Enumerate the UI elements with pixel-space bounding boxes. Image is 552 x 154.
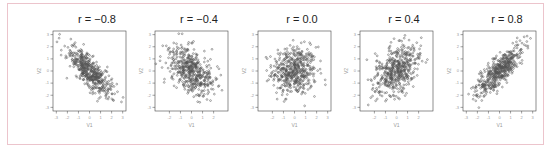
svg-text:2: 2 — [354, 44, 357, 49]
svg-text:0: 0 — [498, 115, 501, 120]
svg-text:0: 0 — [354, 68, 357, 73]
svg-text:2: 2 — [149, 44, 152, 49]
svg-text:3: 3 — [122, 115, 125, 120]
plot-box — [53, 31, 126, 111]
svg-text:-1: -1 — [45, 80, 49, 85]
x-axis-label: V1 — [188, 122, 194, 128]
svg-text:1: 1 — [406, 115, 409, 120]
svg-text:3: 3 — [47, 32, 50, 37]
svg-text:3: 3 — [354, 32, 357, 37]
scatter-plot: -3-2-10123-3-2-10123V1V2 — [45, 4, 149, 146]
svg-text:3: 3 — [327, 115, 330, 120]
svg-text:-2: -2 — [250, 93, 254, 98]
x-axis-label: V1 — [291, 122, 297, 128]
svg-text:2: 2 — [316, 115, 319, 120]
svg-text:0: 0 — [252, 68, 255, 73]
y-axis-label: V2 — [138, 68, 144, 74]
svg-text:-3: -3 — [455, 105, 459, 110]
svg-text:-2: -2 — [271, 115, 275, 120]
svg-text:1: 1 — [509, 115, 512, 120]
svg-text:3: 3 — [532, 115, 535, 120]
svg-text:1: 1 — [47, 56, 50, 61]
svg-text:2: 2 — [521, 115, 524, 120]
scatter-plot: -2-1012-3-2-10123V1V2 — [352, 4, 456, 146]
scatter-panel-3: r = 0.0 -2-10123-3-2-10123V1V2 — [250, 4, 354, 146]
svg-text:0: 0 — [293, 115, 296, 120]
svg-text:1: 1 — [457, 56, 460, 61]
data-points — [56, 33, 124, 102]
svg-text:0: 0 — [149, 68, 152, 73]
svg-text:3: 3 — [252, 32, 255, 37]
svg-text:2: 2 — [252, 44, 255, 49]
y-axis-label: V2 — [343, 68, 349, 74]
svg-text:-1: -1 — [179, 115, 183, 120]
svg-text:2: 2 — [47, 44, 50, 49]
svg-text:-2: -2 — [455, 93, 459, 98]
figure-frame: r = −0.8 -3-2-10123-3-2-10123V1V2 r = −0… — [7, 3, 544, 145]
svg-text:0: 0 — [190, 115, 193, 120]
scatter-plot: -2-1012-3-2-10123V1V2 — [147, 4, 251, 146]
data-points — [366, 35, 428, 106]
svg-text:2: 2 — [111, 115, 114, 120]
svg-text:-2: -2 — [352, 93, 356, 98]
x-axis-label: V1 — [86, 122, 92, 128]
svg-text:2: 2 — [418, 115, 421, 120]
x-axis-label: V1 — [393, 122, 399, 128]
svg-text:-3: -3 — [45, 105, 49, 110]
svg-text:-2: -2 — [66, 115, 70, 120]
svg-text:3: 3 — [457, 32, 460, 37]
svg-text:-2: -2 — [168, 115, 172, 120]
svg-text:1: 1 — [304, 115, 307, 120]
svg-text:-1: -1 — [455, 80, 459, 85]
y-axis-label: V2 — [241, 68, 247, 74]
svg-text:-1: -1 — [250, 80, 254, 85]
svg-text:-1: -1 — [147, 80, 151, 85]
svg-text:-2: -2 — [373, 115, 377, 120]
svg-text:-1: -1 — [352, 80, 356, 85]
svg-text:0: 0 — [47, 68, 50, 73]
data-points — [468, 35, 532, 108]
scatter-plot: -3-2-10123-3-2-10123V1V2 — [455, 4, 552, 146]
svg-text:-2: -2 — [476, 115, 480, 120]
svg-text:-2: -2 — [147, 93, 151, 98]
x-axis-label: V1 — [496, 122, 502, 128]
svg-text:1: 1 — [149, 56, 152, 61]
scatter-panel-1: r = −0.8 -3-2-10123-3-2-10123V1V2 — [45, 4, 149, 146]
svg-text:1: 1 — [201, 115, 204, 120]
svg-text:-2: -2 — [45, 93, 49, 98]
svg-text:3: 3 — [149, 32, 152, 37]
y-axis-label: V2 — [446, 68, 452, 74]
svg-text:-1: -1 — [384, 115, 388, 120]
svg-text:-1: -1 — [487, 115, 491, 120]
scatter-panel-5: r = 0.8 -3-2-10123-3-2-10123V1V2 — [455, 4, 552, 146]
svg-text:2: 2 — [457, 44, 460, 49]
svg-text:-3: -3 — [352, 105, 356, 110]
svg-text:1: 1 — [354, 56, 357, 61]
svg-text:-3: -3 — [465, 115, 469, 120]
svg-text:-3: -3 — [55, 115, 59, 120]
scatter-panel-2: r = −0.4 -2-1012-3-2-10123V1V2 — [147, 4, 251, 146]
svg-text:-3: -3 — [250, 105, 254, 110]
scatter-plot: -2-10123-3-2-10123V1V2 — [250, 4, 354, 146]
svg-text:-1: -1 — [282, 115, 286, 120]
y-axis-label: V2 — [36, 68, 42, 74]
data-points — [265, 39, 326, 106]
svg-text:0: 0 — [395, 115, 398, 120]
svg-text:0: 0 — [88, 115, 91, 120]
svg-text:1: 1 — [99, 115, 102, 120]
svg-text:-3: -3 — [147, 105, 151, 110]
svg-text:0: 0 — [457, 68, 460, 73]
scatter-panel-4: r = 0.4 -2-1012-3-2-10123V1V2 — [352, 4, 456, 146]
svg-text:-1: -1 — [77, 115, 81, 120]
svg-text:1: 1 — [252, 56, 255, 61]
svg-text:2: 2 — [213, 115, 216, 120]
data-points — [155, 33, 223, 103]
